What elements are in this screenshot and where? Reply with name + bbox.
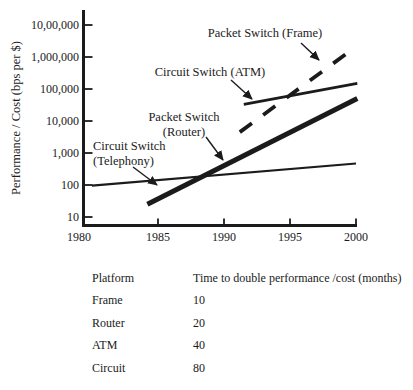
router-annotation-label: Packet Switch xyxy=(148,110,220,124)
y-tick-label: 100 xyxy=(61,178,79,192)
frame-annotation-label: Packet Switch (Frame) xyxy=(208,26,323,40)
y-axis-title: Performance / Cost (bps per $) xyxy=(9,41,23,195)
atm-annotation-label: Circuit Switch (ATM) xyxy=(155,65,265,79)
cell-platform: Router xyxy=(92,316,193,331)
y-tick-label: 100,000 xyxy=(40,82,79,96)
atm-annotation-arrow xyxy=(231,80,252,99)
x-tick-label: 1985 xyxy=(146,230,170,244)
platform-table: Platform Time to double performance /cos… xyxy=(92,271,410,383)
cell-months: 80 xyxy=(193,361,410,376)
router-annotation-label: (Router) xyxy=(163,125,205,139)
col-header-platform: Platform xyxy=(92,271,193,286)
y-tick-label: 10,000 xyxy=(46,114,79,128)
y-tick-label: 10,00,000 xyxy=(31,18,79,32)
cell-months: 10 xyxy=(193,293,410,308)
table-row: Router 20 xyxy=(92,316,410,338)
cell-months: 40 xyxy=(193,338,410,353)
router-annotation-arrow xyxy=(206,137,223,160)
table-row: Circuit 80 xyxy=(92,361,410,383)
table-row: Frame 10 xyxy=(92,293,410,315)
y-tick-label: 1,000 xyxy=(52,146,79,160)
series-atm-line xyxy=(244,83,357,104)
x-tick-label: 1980 xyxy=(67,230,91,244)
table-header-row: Platform Time to double performance /cos… xyxy=(92,271,410,293)
x-tick-label: 1990 xyxy=(212,230,236,244)
telephony-annotation-label: (Telephony) xyxy=(93,154,154,168)
performance-cost-chart: 10,00,0001,000,000100,00010,0001,0001001… xyxy=(0,0,413,262)
cell-platform: ATM xyxy=(92,338,193,353)
table-row: ATM 40 xyxy=(92,338,410,360)
x-tick-label: 1995 xyxy=(278,230,302,244)
y-tick-label: 1,000,000 xyxy=(31,50,79,64)
y-tick-label: 10 xyxy=(67,210,79,224)
cell-platform: Circuit xyxy=(92,361,193,376)
performance-cost-figure: 10,00,0001,000,000100,00010,0001,0001001… xyxy=(0,0,413,390)
col-header-time-to-double: Time to double performance /cost (months… xyxy=(193,271,410,286)
x-tick-label: 2000 xyxy=(344,230,368,244)
frame-annotation-arrow xyxy=(301,43,319,60)
telephony-annotation-label: Circuit Switch xyxy=(93,139,166,153)
cell-platform: Frame xyxy=(92,293,193,308)
cell-months: 20 xyxy=(193,316,410,331)
